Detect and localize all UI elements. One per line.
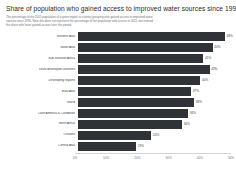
chart-subtitle: The percentage of the 2015 population of… [6,16,156,28]
x-axis-tick: 50% [228,156,234,160]
category-label: Latin America & Caribbean [7,112,78,116]
bar-track: 43% [78,65,231,74]
x-axis-tick: 0% [73,156,77,160]
x-axis-tick: 30% [165,156,171,160]
category-label: Oceania [7,133,78,137]
category-label: World [7,101,78,105]
bar-track: 41% [78,54,231,63]
category-label: Sub-Saharan Africa [7,57,78,61]
bar-row: North Africa34% [7,120,231,129]
x-axis-tick: 10% [103,156,109,160]
category-label: Central Asia [7,144,78,148]
bar-chart: Western Asia48%South Asia44%Sub-Saharan … [7,32,231,158]
category-label: East Asia [7,90,78,94]
bar-row: East Asia37% [7,87,231,96]
bar-track: 44% [78,43,231,52]
bar-track: 38% [78,98,231,107]
bar-value-label: 24% [151,133,159,137]
bar[interactable] [78,32,225,41]
bar-row: Least developed countries43% [7,65,231,74]
bar-row: Central Asia19% [7,142,231,151]
x-axis: 0%10%20%30%40%50% [75,153,231,164]
bar-value-label: 38% [194,100,202,104]
bar-value-label: 41% [203,56,211,60]
page-title: Share of population who gained access to… [6,5,230,13]
bar[interactable] [78,76,200,85]
bar-value-label: 19% [136,144,144,148]
bar-row: World38% [7,98,231,107]
bar-value-label: 44% [213,45,221,49]
bar[interactable] [78,98,194,107]
bar[interactable] [78,54,203,63]
bar-value-label: 40% [200,78,208,82]
category-label: South Asia [7,46,78,50]
bar-track: 48% [78,32,231,41]
bar-value-label: 37% [191,89,199,93]
bar-track: 40% [78,76,231,85]
bar-value-label: 36% [188,111,196,115]
bar[interactable] [78,87,191,96]
bar-track: 24% [78,131,231,140]
chart-page: Share of population who gained access to… [0,0,236,170]
bar-row: Oceania24% [7,131,231,140]
bar[interactable] [78,65,210,74]
category-label: Developing regions [7,79,78,83]
bar-value-label: 43% [210,67,218,71]
category-label: Least developed countries [7,68,78,72]
bar-track: 36% [78,109,231,118]
bar-track: 37% [78,87,231,96]
bar-value-label: 48% [225,34,233,38]
bar-row: Western Asia48% [7,32,231,41]
bar-track: 19% [78,142,231,151]
category-label: North Africa [7,122,78,126]
bar[interactable] [78,109,188,118]
bar-row: South Asia44% [7,43,231,52]
x-axis-tick: 20% [134,156,140,160]
bar-track: 34% [78,120,231,129]
bar[interactable] [78,120,182,129]
category-label: Western Asia [7,35,78,39]
bar-rows: Western Asia48%South Asia44%Sub-Saharan … [7,32,231,151]
bar-row: Developing regions40% [7,76,231,85]
bar-row: Latin America & Caribbean36% [7,109,231,118]
x-axis-tick: 40% [197,156,203,160]
bar-value-label: 34% [182,122,190,126]
bar-row: Sub-Saharan Africa41% [7,54,231,63]
bar[interactable] [78,43,213,52]
bar[interactable] [78,142,136,151]
bar[interactable] [78,131,151,140]
